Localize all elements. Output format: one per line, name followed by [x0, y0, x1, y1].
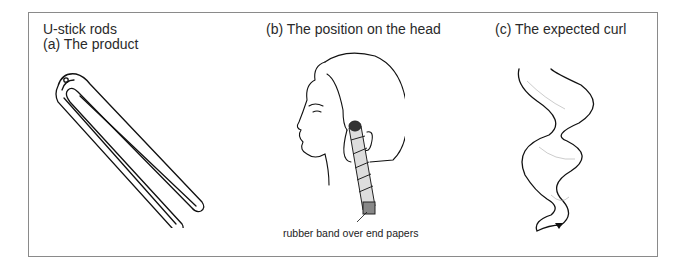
panel-c-label: (c) The expected curl: [495, 22, 626, 37]
wavy-curl-illustration: [515, 65, 615, 235]
panel-b-label: (b) The position on the head: [266, 22, 441, 37]
panel-a-label: (a) The product: [43, 37, 138, 52]
u-stick-rod-illustration: [50, 68, 210, 228]
figure-title: U-stick rods: [43, 22, 117, 37]
head-profile-illustration: [285, 50, 405, 230]
rubber-band-annotation: rubber band over end papers: [283, 227, 418, 239]
